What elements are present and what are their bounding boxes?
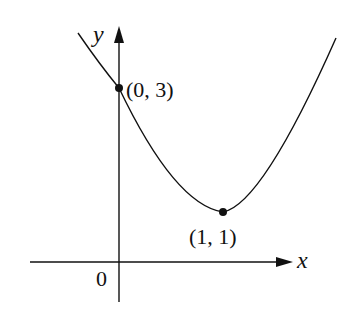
point-y-intercept [115, 84, 123, 92]
parabola-curve [78, 33, 336, 212]
graph-figure: (0, 3) (1, 1) y x 0 [0, 0, 350, 325]
y-axis-label: y [91, 21, 104, 47]
x-axis-arrow-icon [276, 257, 293, 267]
y-axis-arrow-icon [114, 26, 124, 43]
point-label-y-intercept: (0, 3) [126, 77, 174, 102]
point-label-vertex: (1, 1) [189, 224, 237, 249]
x-axis-label: x [296, 247, 308, 273]
origin-label: 0 [96, 266, 107, 291]
point-vertex [219, 208, 227, 216]
